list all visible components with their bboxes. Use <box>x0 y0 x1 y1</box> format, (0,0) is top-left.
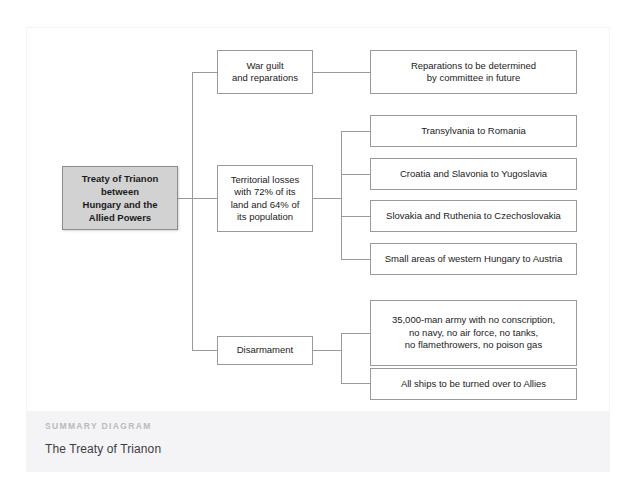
node-leaf-reparations[interactable]: Reparations to be determined by committe… <box>370 50 577 94</box>
footer-title: The Treaty of Trianon <box>45 442 161 456</box>
node-leaf-croatia-slavonia-text: Croatia and Slavonia to Yugoslavia <box>396 168 551 180</box>
node-root-line-2: between <box>78 185 163 198</box>
node-root-line-4: Allied Powers <box>78 211 163 224</box>
node-root-text: Treaty of Trianon between Hungary and th… <box>74 172 167 225</box>
node-leaf-ships-to-allies[interactable]: All ships to be turned over to Allies <box>370 368 577 400</box>
footer-kicker: SUMMARY DIAGRAM <box>45 421 152 431</box>
node-leaf-army-restrictions[interactable]: 35,000-man army with no conscription, no… <box>370 300 577 366</box>
connector-branch-1-to-child-1 <box>313 72 370 73</box>
connector-main-trunk <box>192 72 193 350</box>
connector-branch-2-stub <box>313 198 341 199</box>
node-leaf-western-hungary-text: Small areas of western Hungary to Austri… <box>381 253 566 265</box>
connector-root-stub <box>178 198 193 199</box>
connector-branch-2-to-child-3 <box>341 216 370 217</box>
node-leaf-army-restrictions-line-3: no flamethrowers, no poison gas <box>388 339 559 351</box>
connector-branch-3-trunk <box>341 333 342 383</box>
node-branch-territorial-losses-line-2: with 72% of its <box>227 186 304 198</box>
connector-trunk-to-branch-3 <box>192 350 217 351</box>
node-branch-disarmament-text: Disarmament <box>233 344 298 356</box>
connector-branch-2-to-child-1 <box>341 131 370 132</box>
node-leaf-reparations-line-1: Reparations to be determined <box>407 60 540 72</box>
node-leaf-reparations-line-2: by committee in future <box>407 72 540 84</box>
diagram-page: Treaty of Trianon between Hungary and th… <box>0 0 640 493</box>
node-branch-territorial-losses-text: Territorial losses with 72% of its land … <box>223 174 308 224</box>
node-leaf-transylvania-text: Transylvania to Romania <box>417 125 530 137</box>
node-branch-territorial-losses-line-3: land and 64% of <box>227 199 304 211</box>
node-leaf-transylvania[interactable]: Transylvania to Romania <box>370 115 577 147</box>
connector-branch-2-trunk <box>341 131 342 259</box>
node-branch-war-guilt-text: War guilt and reparations <box>224 60 306 85</box>
node-root-line-1: Treaty of Trianon <box>78 172 163 185</box>
connector-branch-2-to-child-4 <box>341 259 370 260</box>
connector-trunk-to-branch-2 <box>192 198 217 199</box>
connector-branch-3-to-child-1 <box>341 333 370 334</box>
node-leaf-reparations-text: Reparations to be determined by committe… <box>403 60 544 85</box>
node-root-line-3: Hungary and the <box>78 198 163 211</box>
node-branch-territorial-losses[interactable]: Territorial losses with 72% of its land … <box>217 165 313 232</box>
node-root-treaty[interactable]: Treaty of Trianon between Hungary and th… <box>62 166 178 230</box>
node-branch-war-guilt-line-1: War guilt <box>228 60 302 72</box>
connector-branch-3-stub <box>313 350 341 351</box>
node-leaf-slovakia-ruthenia-text: Slovakia and Ruthenia to Czechoslovakia <box>382 210 565 222</box>
node-branch-war-guilt-line-2: and reparations <box>228 72 302 84</box>
connector-branch-2-to-child-2 <box>341 174 370 175</box>
node-leaf-croatia-slavonia[interactable]: Croatia and Slavonia to Yugoslavia <box>370 158 577 190</box>
node-branch-war-guilt[interactable]: War guilt and reparations <box>217 50 313 94</box>
connector-branch-3-to-child-2 <box>341 383 370 384</box>
node-branch-disarmament[interactable]: Disarmament <box>217 336 313 365</box>
connector-trunk-to-branch-1 <box>192 72 217 73</box>
node-leaf-slovakia-ruthenia[interactable]: Slovakia and Ruthenia to Czechoslovakia <box>370 200 577 232</box>
diagram-footer: SUMMARY DIAGRAM The Treaty of Trianon <box>27 411 609 471</box>
node-branch-territorial-losses-line-4: its population <box>227 211 304 223</box>
node-leaf-western-hungary[interactable]: Small areas of western Hungary to Austri… <box>370 243 577 275</box>
node-branch-territorial-losses-line-1: Territorial losses <box>227 174 304 186</box>
node-leaf-ships-to-allies-text: All ships to be turned over to Allies <box>397 378 550 390</box>
node-leaf-army-restrictions-line-2: no navy, no air force, no tanks, <box>388 327 559 339</box>
node-leaf-army-restrictions-line-1: 35,000-man army with no conscription, <box>388 314 559 326</box>
node-leaf-army-restrictions-text: 35,000-man army with no conscription, no… <box>384 314 563 351</box>
